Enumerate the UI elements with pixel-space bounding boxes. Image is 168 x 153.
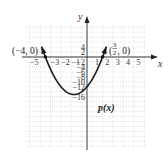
x-tick-label: 5 [137,58,141,67]
y-axis-arrow-icon [85,16,90,23]
function-label: p(x) [97,102,115,114]
x-axis-arrow-icon [151,55,158,60]
x-tick-label: 2 [105,58,109,67]
svg-text:, 0): , 0) [118,46,131,57]
y-axis-label: y [77,11,83,22]
x-tick-label: −5 [30,58,39,67]
y-tick-label: 2 [81,48,85,57]
x-intercept-dot [101,55,105,59]
x-intercept-dot [44,55,48,59]
fraction-numerator: 3 [113,41,116,48]
x-tick-label: 3 [116,58,120,67]
root-left-label: (−4, 0) [12,46,38,57]
root-right-label: ( 3 2 , 0) [109,41,130,57]
x-tick-label: 4 [126,58,130,67]
x-tick-label: −3 [51,58,60,67]
x-axis-label: x [157,58,163,69]
x-tick-label: −2 [61,58,70,67]
curve-arrow-icon [41,46,46,54]
fraction-denominator: 2 [113,49,116,56]
grid [26,26,145,148]
parabola-graph: −5−3−2−11234542−2−4−6−8−10−12−16 y x (−4… [0,0,168,153]
svg-text:(: ( [109,46,112,57]
